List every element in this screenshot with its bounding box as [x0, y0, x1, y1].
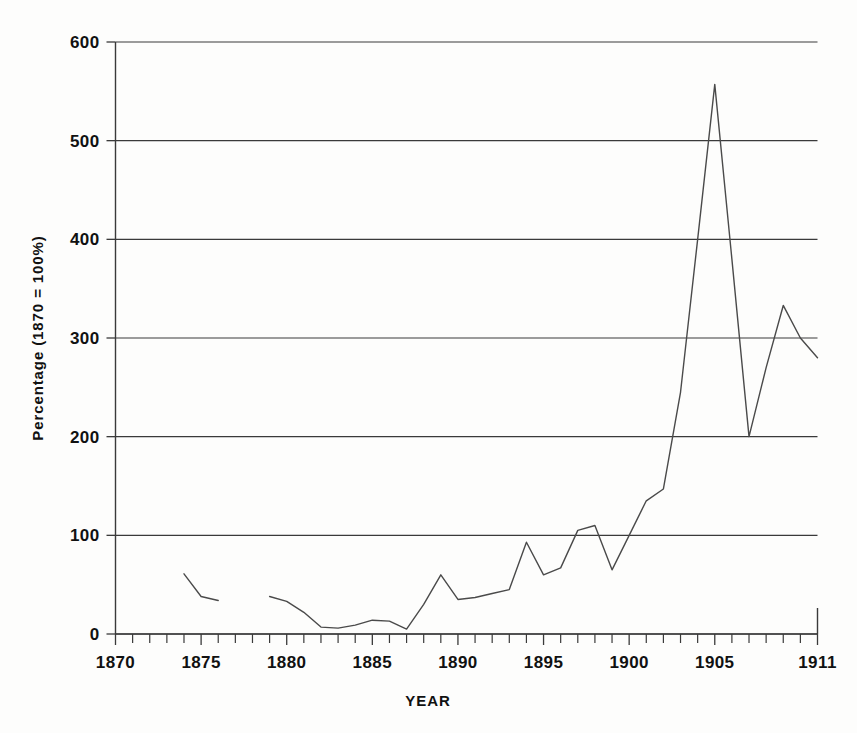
chart-figure: 0100200300400500600 18701875188018851890… — [0, 0, 857, 733]
y-tick-label-300: 300 — [70, 329, 100, 348]
y-tick-labels-group: 0100200300400500600 — [70, 33, 100, 644]
y-tick-label-0: 0 — [90, 625, 100, 644]
series-line-0-segment-1 — [270, 84, 818, 629]
x-tick-label-1900: 1900 — [609, 653, 648, 672]
x-tick-label-1895: 1895 — [524, 653, 563, 672]
y-tick-marks-group — [107, 42, 116, 634]
x-axis-title: YEAR — [405, 692, 450, 709]
data-series-group — [184, 84, 818, 629]
y-axis-title: Percentage (1870 = 100%) — [29, 235, 46, 440]
x-tick-marks-group — [116, 634, 818, 645]
series-line-0-segment-0 — [184, 574, 218, 601]
y-tick-label-100: 100 — [70, 526, 100, 545]
y-tick-label-500: 500 — [70, 132, 100, 151]
x-tick-labels-group: 187018751880188518901895190019051911 — [96, 653, 837, 672]
x-tick-label-1875: 1875 — [181, 653, 220, 672]
y-tick-label-200: 200 — [70, 428, 100, 447]
x-tick-label-1911: 1911 — [798, 653, 836, 672]
y-tick-label-400: 400 — [70, 230, 100, 249]
x-tick-label-1880: 1880 — [267, 653, 306, 672]
line-chart-canvas: 0100200300400500600 18701875188018851890… — [0, 0, 857, 733]
x-tick-label-1885: 1885 — [353, 653, 392, 672]
x-tick-label-1905: 1905 — [695, 653, 734, 672]
y-tick-label-600: 600 — [70, 33, 100, 52]
gridlines-group — [116, 42, 818, 634]
x-tick-label-1890: 1890 — [438, 653, 477, 672]
x-tick-label-1870: 1870 — [96, 653, 135, 672]
